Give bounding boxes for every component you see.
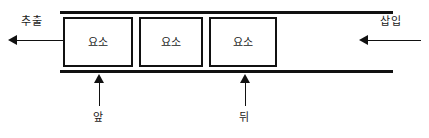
extract-label: 추출 xyxy=(21,16,42,27)
queue-structure-diagram: 요소 요소 요소 추출 삽입 앞 뒤 xyxy=(0,0,429,138)
insert-arrow-left-icon xyxy=(359,35,421,46)
front-arrow-up-icon xyxy=(94,74,105,106)
element-box-label: 요소 xyxy=(161,37,182,48)
arrow-shaft xyxy=(15,40,63,41)
rear-arrow-up-icon xyxy=(240,74,251,106)
element-box: 요소 xyxy=(209,17,277,67)
extract-arrow-left-icon xyxy=(8,35,63,46)
arrow-shaft xyxy=(99,81,100,106)
front-label: 앞 xyxy=(93,112,104,123)
channel-bottom-rail xyxy=(60,70,393,73)
arrow-shaft xyxy=(366,40,421,41)
element-box-label: 요소 xyxy=(88,37,109,48)
rear-label: 뒤 xyxy=(239,112,250,123)
arrow-shaft xyxy=(245,81,246,106)
insert-label: 삽입 xyxy=(380,16,401,27)
element-box-label: 요소 xyxy=(233,37,254,48)
element-box: 요소 xyxy=(139,17,203,67)
element-box: 요소 xyxy=(63,17,133,67)
channel-top-rail xyxy=(60,11,393,14)
